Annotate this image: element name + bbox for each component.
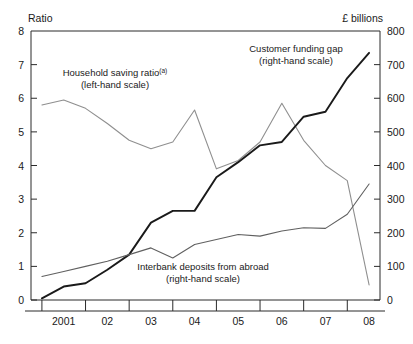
right-tick-label: 200	[387, 227, 405, 239]
left-tick-label: 2	[18, 227, 24, 239]
left-tick-label: 6	[18, 92, 24, 104]
left-axis-ticks: 012345678	[18, 25, 37, 306]
customer-funding-gap-label-line1: Customer funding gap	[249, 43, 342, 54]
household-saving-ratio-annotation: Household saving ratio(a) (left-hand sca…	[63, 67, 168, 90]
household-saving-ratio-label-line2: (left-hand scale)	[81, 79, 149, 90]
household-saving-ratio-label-line1: Household saving ratio(a)	[63, 67, 168, 78]
right-tick-label: 800	[387, 25, 405, 37]
left-tick-label: 7	[18, 59, 24, 71]
line-chart: Ratio £ billions 012345678 0100200300400…	[0, 0, 413, 344]
x-tick-label: 05	[232, 315, 244, 327]
right-tick-label: 500	[387, 126, 405, 138]
left-tick-label: 4	[18, 160, 24, 172]
x-tick-label: 2001	[52, 315, 76, 327]
right-axis-ticks: 0100200300400500600700800	[374, 25, 405, 306]
x-tick-label: 07	[320, 315, 332, 327]
right-axis-title: £ billions	[342, 12, 383, 24]
x-tick-label: 03	[145, 315, 157, 327]
chart-container: Ratio £ billions 012345678 0100200300400…	[0, 0, 413, 344]
x-tick-label: 02	[102, 315, 114, 327]
right-tick-label: 0	[387, 294, 393, 306]
interbank-deposits-label-line2: (right-hand scale)	[166, 273, 240, 284]
customer-funding-gap-annotation: Customer funding gap (right-hand scale)	[249, 43, 342, 66]
right-tick-label: 700	[387, 59, 405, 71]
interbank-deposits-annotation: Interbank deposits from abroad (right-ha…	[137, 261, 269, 284]
customer-funding-gap-label-line2: (right-hand scale)	[259, 55, 333, 66]
left-axis-title: Ratio	[28, 12, 53, 24]
left-tick-label: 1	[18, 260, 24, 272]
x-tick-label: 06	[276, 315, 288, 327]
left-tick-label: 5	[18, 126, 24, 138]
x-tick-label: 04	[189, 315, 201, 327]
right-tick-label: 400	[387, 160, 405, 172]
x-axis-ticks: 200102030405060708	[42, 300, 375, 327]
left-tick-label: 8	[18, 25, 24, 37]
interbank-deposits-label-line1: Interbank deposits from abroad	[137, 261, 269, 272]
right-tick-label: 100	[387, 260, 405, 272]
left-tick-label: 3	[18, 193, 24, 205]
left-tick-label: 0	[18, 294, 24, 306]
right-tick-label: 600	[387, 92, 405, 104]
x-tick-label: 08	[363, 315, 375, 327]
right-tick-label: 300	[387, 193, 405, 205]
